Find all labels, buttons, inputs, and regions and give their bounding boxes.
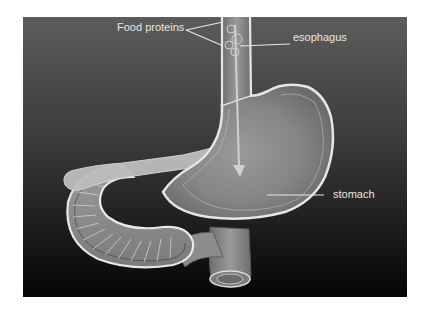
digestive-tract-illustration: [23, 17, 407, 297]
label-food-proteins: Food proteins: [117, 21, 184, 33]
label-esophagus: esophagus: [293, 31, 347, 43]
label-stomach: stomach: [333, 188, 375, 200]
anatomy-diagram: Food proteins esophagus stomach: [23, 17, 407, 297]
